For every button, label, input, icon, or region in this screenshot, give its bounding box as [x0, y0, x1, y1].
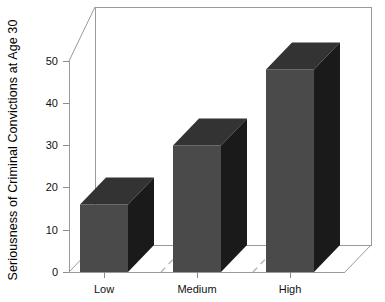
x-axis-category-labels: Low Medium High	[94, 283, 301, 295]
y-tick-label-0: 0	[52, 266, 58, 278]
y-axis-title: Seriousness of Criminal Convictions at A…	[6, 20, 20, 281]
depth-edge-top-left	[69, 7, 95, 61]
chart-container: 50 40 30 20 10 0 Seriousness of Criminal…	[0, 0, 385, 302]
bar-high-front-face	[266, 69, 314, 272]
bar-low[interactable]	[80, 177, 154, 272]
bar-medium-side-face	[221, 118, 247, 272]
depth-edge-bottom-right	[345, 245, 371, 272]
y-axis-ticks	[63, 61, 69, 272]
bar-high-side-face	[314, 42, 340, 272]
bar-low-front-face	[80, 204, 128, 272]
y-tick-label-20: 20	[46, 181, 58, 193]
y-tick-label-50: 50	[46, 55, 58, 67]
y-tick-label-40: 40	[46, 97, 58, 109]
x-category-label-high: High	[279, 283, 302, 295]
y-tick-label-30: 30	[46, 139, 58, 151]
bar-high[interactable]	[266, 42, 340, 272]
x-category-label-medium: Medium	[177, 283, 216, 295]
x-category-label-low: Low	[94, 283, 114, 295]
y-tick-label-10: 10	[46, 224, 58, 236]
bar-medium-front-face	[173, 145, 221, 272]
y-axis-tick-labels: 50 40 30 20 10 0	[46, 55, 58, 278]
bar-chart-3d: 50 40 30 20 10 0 Seriousness of Criminal…	[0, 0, 385, 302]
bar-medium[interactable]	[173, 118, 247, 272]
x-axis-ticks	[104, 272, 290, 278]
